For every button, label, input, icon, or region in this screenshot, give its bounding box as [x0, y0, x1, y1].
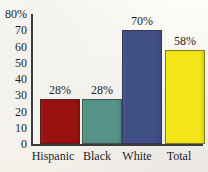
- y-axis-tick-40: 40: [15, 73, 27, 85]
- x-axis-line: [31, 144, 203, 146]
- y-axis-tick-20: 20: [15, 106, 27, 118]
- y-axis-tick-80: 80%: [5, 8, 27, 20]
- y-axis-tick-30: 30: [15, 89, 27, 101]
- bar-value-label-white: 70%: [131, 15, 153, 27]
- bar-black[interactable]: [82, 99, 122, 145]
- y-axis-tick-70: 70: [15, 24, 27, 36]
- y-axis-tick-60: 60: [15, 41, 27, 53]
- bar-value-label-black: 28%: [91, 84, 113, 96]
- y-axis-tick-50: 50: [15, 57, 27, 69]
- chart-title: [56, 0, 208, 3]
- bar-value-label-total: 58%: [174, 35, 196, 47]
- bar-hispanic[interactable]: [40, 99, 80, 145]
- plot-area: 80%706050403020100 28%28%70%58%: [31, 14, 203, 146]
- bar-total[interactable]: [165, 50, 205, 144]
- y-axis-tick-10: 10: [15, 122, 27, 134]
- x-axis-category-labels: HispanicBlackWhiteTotal: [31, 150, 205, 168]
- bar-white[interactable]: [122, 30, 162, 144]
- bar-slot-black: 28%: [82, 12, 122, 144]
- bar-slot-white: 70%: [122, 12, 162, 144]
- y-axis-tick-0: 0: [21, 138, 27, 150]
- bar-slot-hispanic: 28%: [40, 12, 80, 144]
- x-axis-label-total: Total: [151, 150, 207, 163]
- bar-series: 28%28%70%58%: [33, 14, 203, 144]
- bar-value-label-hispanic: 28%: [49, 84, 71, 96]
- bar-chart-figure: 80%706050403020100 28%28%70%58% Hispanic…: [0, 0, 208, 172]
- bar-slot-total: 58%: [165, 12, 205, 144]
